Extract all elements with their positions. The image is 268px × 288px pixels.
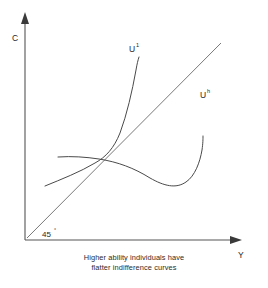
forty-five-degree-label: 45	[42, 230, 51, 239]
figure-caption-line-1: Higher ability individuals have	[0, 253, 268, 263]
plot-canvas: C Y 45 ° U 1 U h	[0, 0, 268, 288]
figure-caption-line-2: flatter indifference curves	[0, 263, 268, 273]
x-axis-arrowhead-icon	[230, 236, 242, 244]
figure-caption: Higher ability individuals have flatter …	[0, 253, 268, 273]
curve-u-low	[58, 136, 203, 186]
degree-symbol-icon: °	[54, 227, 56, 233]
curve-label-u-high: U	[129, 44, 135, 54]
y-axis-label: C	[12, 33, 18, 43]
indifference-curve-figure: C Y 45 ° U 1 U h Higher ability individu…	[0, 0, 268, 288]
forty-five-degree-line	[27, 43, 221, 238]
curve-label-u-low: U	[200, 90, 206, 100]
curve-label-u-low-superscript: h	[207, 88, 210, 94]
y-axis-arrowhead-icon	[21, 12, 29, 24]
curve-u-high	[45, 57, 139, 186]
curve-label-u-high-superscript: 1	[136, 42, 139, 48]
